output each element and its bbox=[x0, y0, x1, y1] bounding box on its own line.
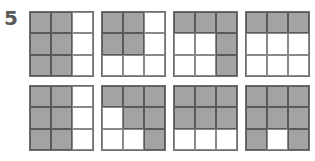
shaded-cell bbox=[195, 12, 216, 33]
empty-cell bbox=[123, 129, 144, 150]
shaded-cell bbox=[288, 107, 309, 128]
empty-cell bbox=[102, 55, 123, 76]
grid-option-4[interactable] bbox=[245, 11, 310, 77]
shaded-cell bbox=[51, 129, 72, 150]
empty-cell bbox=[174, 55, 195, 76]
shaded-cell bbox=[144, 129, 165, 150]
shaded-cell bbox=[51, 55, 72, 76]
empty-cell bbox=[267, 55, 288, 76]
shaded-cell bbox=[267, 107, 288, 128]
grid-option-3[interactable] bbox=[173, 11, 238, 77]
empty-cell bbox=[195, 33, 216, 54]
empty-cell bbox=[267, 33, 288, 54]
shaded-cell bbox=[174, 86, 195, 107]
shaded-cell bbox=[195, 86, 216, 107]
empty-cell bbox=[216, 129, 237, 150]
shaded-cell bbox=[30, 55, 51, 76]
shaded-cell bbox=[246, 107, 267, 128]
shaded-cell bbox=[51, 86, 72, 107]
shaded-cell bbox=[51, 107, 72, 128]
shaded-cell bbox=[51, 33, 72, 54]
shaded-cell bbox=[246, 12, 267, 33]
shaded-cell bbox=[288, 86, 309, 107]
empty-cell bbox=[72, 55, 93, 76]
shaded-cell bbox=[30, 129, 51, 150]
shaded-cell bbox=[144, 107, 165, 128]
shaded-cell bbox=[123, 107, 144, 128]
empty-cell bbox=[288, 33, 309, 54]
empty-cell bbox=[72, 33, 93, 54]
shaded-cell bbox=[174, 12, 195, 33]
shaded-cell bbox=[216, 107, 237, 128]
empty-cell bbox=[144, 55, 165, 76]
grid-option-8[interactable] bbox=[245, 85, 310, 151]
empty-cell bbox=[72, 107, 93, 128]
shaded-cell bbox=[102, 33, 123, 54]
empty-cell bbox=[102, 107, 123, 128]
empty-cell bbox=[72, 12, 93, 33]
empty-cell bbox=[144, 12, 165, 33]
shaded-cell bbox=[144, 86, 165, 107]
shaded-cell bbox=[216, 55, 237, 76]
shaded-cell bbox=[267, 12, 288, 33]
shaded-cell bbox=[246, 129, 267, 150]
shaded-cell bbox=[123, 86, 144, 107]
shaded-cell bbox=[267, 86, 288, 107]
shaded-cell bbox=[174, 107, 195, 128]
shaded-cell bbox=[102, 86, 123, 107]
shaded-cell bbox=[195, 107, 216, 128]
empty-cell bbox=[246, 55, 267, 76]
shaded-cell bbox=[246, 86, 267, 107]
shaded-cell bbox=[216, 12, 237, 33]
shaded-cell bbox=[288, 12, 309, 33]
grid-option-1[interactable] bbox=[29, 11, 94, 77]
empty-cell bbox=[72, 86, 93, 107]
empty-cell bbox=[174, 129, 195, 150]
grid-option-7[interactable] bbox=[173, 85, 238, 151]
grid-option-2[interactable] bbox=[101, 11, 166, 77]
question-number: 5 bbox=[4, 8, 18, 28]
shaded-cell bbox=[216, 86, 237, 107]
grid-option-5[interactable] bbox=[29, 85, 94, 151]
empty-cell bbox=[288, 55, 309, 76]
empty-cell bbox=[174, 33, 195, 54]
shaded-cell bbox=[30, 12, 51, 33]
shaded-cell bbox=[102, 12, 123, 33]
shaded-cell bbox=[288, 129, 309, 150]
shaded-cell bbox=[123, 33, 144, 54]
empty-cell bbox=[195, 55, 216, 76]
empty-cell bbox=[267, 129, 288, 150]
empty-cell bbox=[144, 33, 165, 54]
shaded-cell bbox=[30, 33, 51, 54]
shaded-cell bbox=[216, 33, 237, 54]
shaded-cell bbox=[30, 107, 51, 128]
empty-cell bbox=[123, 55, 144, 76]
empty-cell bbox=[72, 129, 93, 150]
shaded-cell bbox=[51, 12, 72, 33]
grid-option-6[interactable] bbox=[101, 85, 166, 151]
shaded-cell bbox=[123, 12, 144, 33]
empty-cell bbox=[246, 33, 267, 54]
shaded-cell bbox=[30, 86, 51, 107]
empty-cell bbox=[102, 129, 123, 150]
empty-cell bbox=[195, 129, 216, 150]
